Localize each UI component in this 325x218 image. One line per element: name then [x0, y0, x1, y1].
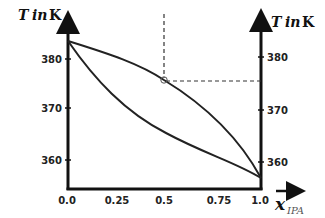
left-tick-370: 370: [41, 103, 62, 114]
right-tick-380: 380: [267, 52, 288, 63]
svg-text:T: T: [18, 7, 30, 23]
svg-text:x: x: [274, 194, 286, 214]
left-tick-360: 360: [41, 155, 62, 166]
phase-diagram: 380 370 360 380 370 360 0.0 0.25 0.5 0.7…: [0, 0, 325, 218]
svg-text:K: K: [49, 7, 62, 23]
left-axis-title: T in K: [18, 7, 62, 23]
x-tick-0: 0.0: [58, 195, 76, 206]
chart-canvas: 380 370 360 380 370 360 0.0 0.25 0.5 0.7…: [0, 0, 325, 218]
right-tick-360: 360: [267, 157, 288, 168]
svg-text:in: in: [285, 14, 301, 30]
svg-text:K: K: [302, 14, 315, 30]
x-tick-1: 1.0: [251, 195, 269, 206]
svg-text:T: T: [271, 14, 283, 30]
left-tick-380: 380: [41, 54, 62, 65]
x-axis-title: x IPA: [274, 194, 304, 216]
bubble-curve: [68, 41, 261, 178]
x-tick-05: 0.5: [155, 195, 173, 206]
x-tick-025: 0.25: [105, 195, 130, 206]
right-tick-370: 370: [267, 105, 288, 116]
svg-text:IPA: IPA: [286, 205, 304, 216]
svg-text:in: in: [32, 7, 48, 23]
right-axis-title: T in K: [271, 14, 315, 30]
dew-curve: [68, 41, 261, 178]
x-tick-075: 0.75: [207, 195, 232, 206]
